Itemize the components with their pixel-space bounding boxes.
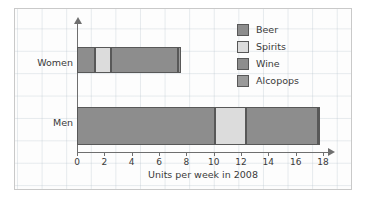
category-label-women: Women (23, 57, 73, 68)
legend-label: Alcopops (256, 75, 299, 86)
legend-label: Beer (256, 24, 278, 35)
bar-segment-wine (246, 107, 317, 145)
chart-panel: 024681012141618 Women Men Units per week… (14, 8, 352, 190)
legend-label: Spirits (256, 41, 286, 52)
legend-item-beer: Beer (237, 21, 347, 38)
x-tick-label: 12 (235, 157, 246, 167)
bar-segment-wine (111, 47, 178, 73)
bar-segment-spirits (215, 107, 246, 145)
x-tick (159, 152, 160, 156)
x-tick-label: 2 (101, 157, 107, 167)
x-tick (132, 152, 133, 156)
x-tick-label: 0 (74, 157, 80, 167)
legend-item-wine: Wine (237, 55, 347, 72)
x-tick-label: 4 (129, 157, 135, 167)
x-tick (214, 152, 215, 156)
x-tick-label: 14 (263, 157, 274, 167)
legend-swatch-alcopops-icon (237, 75, 249, 87)
x-tick (104, 152, 105, 156)
legend-swatch-wine-icon (237, 58, 249, 70)
x-axis-line (77, 152, 329, 153)
legend-item-alcopops: Alcopops (237, 72, 347, 89)
bar-segment-beer (77, 47, 95, 73)
stacked-bar-men (77, 107, 320, 145)
bar-segment-beer (77, 107, 215, 145)
x-tick (268, 152, 269, 156)
category-label-men: Men (23, 117, 73, 128)
chart-legend: BeerSpiritsWineAlcopops (237, 21, 347, 89)
bar-segment-alcopops (318, 107, 321, 145)
x-tick (77, 152, 78, 156)
stacked-bar-women (77, 47, 181, 73)
x-tick (296, 152, 297, 156)
x-tick-label: 18 (317, 157, 328, 167)
x-tick-label: 16 (290, 157, 301, 167)
legend-label: Wine (256, 58, 280, 69)
x-tick (186, 152, 187, 156)
x-tick (241, 152, 242, 156)
x-axis-arrow-icon (328, 148, 335, 156)
x-tick-label: 10 (208, 157, 219, 167)
legend-swatch-spirits-icon (237, 41, 249, 53)
y-axis-arrow-icon (74, 17, 82, 24)
bar-segment-alcopops (178, 47, 181, 73)
x-axis-title: Units per week in 2008 (77, 169, 329, 180)
bar-segment-spirits (95, 47, 111, 73)
legend-item-spirits: Spirits (237, 38, 347, 55)
x-tick-label: 8 (183, 157, 189, 167)
x-tick-label: 6 (156, 157, 162, 167)
legend-swatch-beer-icon (237, 24, 249, 36)
x-tick (323, 152, 324, 156)
